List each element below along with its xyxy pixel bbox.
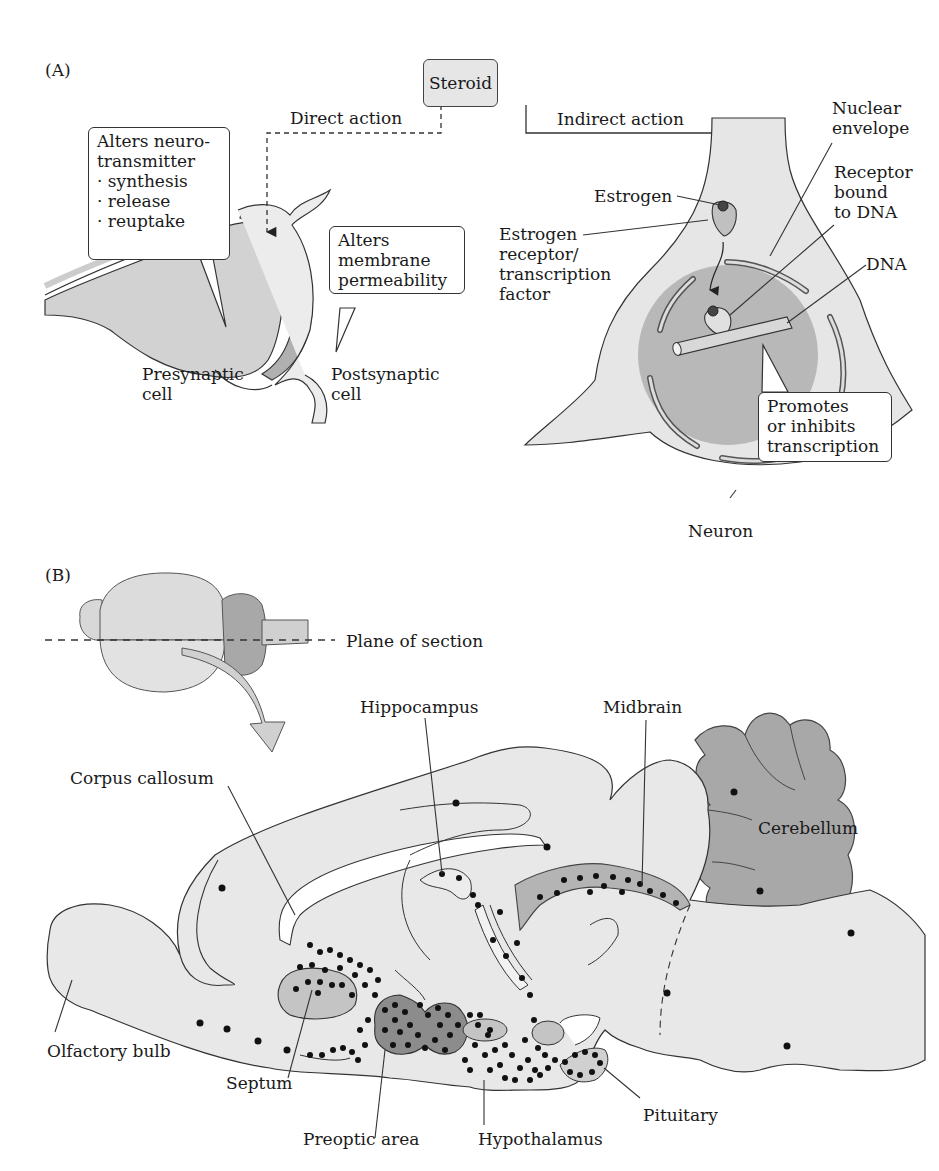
postsynaptic-label: Postsynaptic cell [331,364,440,404]
callout-line: Alters neuro- [97,131,221,151]
label-line: Receptor [834,162,913,182]
callout-transcription: Promotes or inhibits transcription [758,392,892,462]
label-line: cell [142,384,244,404]
steroid-box: Steroid [423,59,498,107]
figure: (A) Steroid Direct action Indirect actio… [0,0,939,1171]
callout-item: · synthesis [97,171,221,191]
brain-dorsal-thumbnail [80,573,308,692]
olfactory-bulb-label: Olfactory bulb [47,1041,171,1061]
label-line: transcription [499,264,611,284]
pituitary-label: Pituitary [643,1105,718,1125]
label-line: bound [834,182,913,202]
callout-line: membrane [338,250,456,270]
neuron-label: Neuron [688,521,753,541]
estrogen-receptor-label: Estrogen receptor/ transcription factor [499,224,611,304]
dna-label: DNA [866,254,907,274]
midbrain-label: Midbrain [603,697,682,717]
label-line: Nuclear [832,98,909,118]
nuclear-envelope-label: Nuclear envelope [832,98,909,138]
cerebellum-label: Cerebellum [758,818,858,838]
plane-of-section-label: Plane of section [346,631,483,651]
label-line: receptor/ [499,244,611,264]
callout-membrane: Alters membrane permeability [329,226,465,294]
hypothalamus-label: Hypothalamus [478,1129,603,1149]
preoptic-area-label: Preoptic area [303,1129,419,1149]
callout-item: · release [97,191,221,211]
steroid-label: Steroid [429,73,492,93]
corpus-callosum-label: Corpus callosum [70,768,214,788]
callout-line: transmitter [97,151,221,171]
callout-item: · reuptake [97,211,221,231]
label-line: factor [499,284,611,304]
callout-line: permeability [338,270,456,290]
panel-b-label: (B) [45,565,71,585]
label-line: Estrogen [499,224,611,244]
indirect-action-label: Indirect action [557,109,684,129]
direct-action-label: Direct action [290,108,402,128]
callout-neurotransmitter: Alters neuro- transmitter · synthesis · … [88,127,230,260]
septum-label: Septum [226,1073,293,1093]
label-line: envelope [832,118,909,138]
label-line: to DNA [834,202,913,222]
receptor-bound-label: Receptor bound to DNA [834,162,913,222]
label-line: Presynaptic [142,364,244,384]
callout-line: Alters [338,230,456,250]
presynaptic-label: Presynaptic cell [142,364,244,404]
panel-a-label: (A) [45,60,71,80]
label-line: Postsynaptic [331,364,440,384]
hippocampus-label: Hippocampus [360,697,479,717]
callout-line: transcription [767,436,883,456]
callout-line: or inhibits [767,416,883,436]
label-line: cell [331,384,440,404]
callout-line: Promotes [767,396,883,416]
estrogen-label: Estrogen [594,186,672,206]
